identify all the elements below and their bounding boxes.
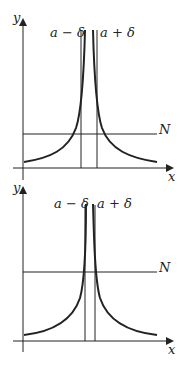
curve-left bbox=[24, 204, 86, 335]
right-bound-label: a + δ bbox=[100, 25, 135, 40]
x-axis-label: x bbox=[168, 342, 176, 357]
panel-top: y x N a − δ a + δ bbox=[12, 10, 176, 184]
threshold-label: N bbox=[158, 260, 171, 275]
left-bound-label: a − δ bbox=[50, 25, 85, 40]
left-bound-label: a − δ bbox=[54, 196, 89, 211]
curve-right bbox=[93, 204, 157, 335]
panel-bottom: y x N a − δ a + δ bbox=[12, 180, 176, 357]
x-axis-label: x bbox=[168, 169, 176, 184]
diagram: y x N a − δ a + δ y x N a − δ a + δ bbox=[0, 0, 184, 367]
y-axis-label: y bbox=[12, 10, 21, 25]
y-axis-label: y bbox=[12, 180, 21, 195]
threshold-label: N bbox=[158, 122, 171, 137]
curve-left bbox=[24, 30, 85, 162]
curve-right bbox=[93, 30, 157, 162]
right-bound-label: a + δ bbox=[97, 196, 132, 211]
